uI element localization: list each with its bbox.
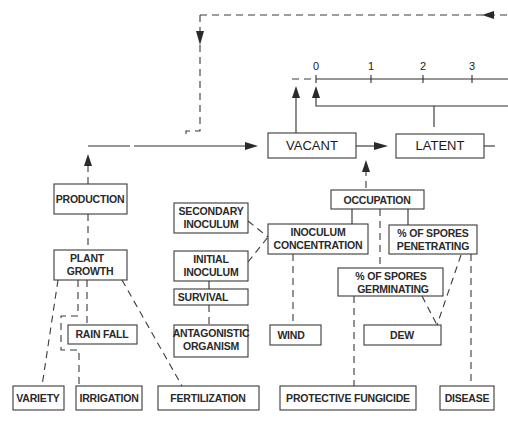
protective-fungicide-label: PROTECTIVE FUNGICIDE xyxy=(286,392,410,404)
initial-inoculum-label-1: INITIAL xyxy=(193,253,229,265)
fertilization-label: FERTILIZATION xyxy=(170,392,245,404)
arrow-left-icon xyxy=(482,11,494,19)
variety-box: VARIETY xyxy=(13,386,64,410)
dew-label: DEW xyxy=(390,329,414,341)
wind-label: WIND xyxy=(277,329,305,341)
tick-label-0: 0 xyxy=(313,60,319,72)
disease-box: DISEASE xyxy=(440,386,494,410)
secondary-inoculum-box: SECONDARY INOCULUM xyxy=(174,203,248,233)
latent-state-box: LATENT xyxy=(396,134,484,158)
antagonistic-organism-label-1: ANTAGONISTIC xyxy=(173,327,250,339)
variety-label: VARIETY xyxy=(16,392,60,404)
production-label: PRODUCTION xyxy=(56,193,125,205)
dew-box: DEW xyxy=(364,325,441,345)
wind-box: WIND xyxy=(270,325,321,345)
occupation-box: OCCUPATION xyxy=(331,190,424,209)
occupation-label: OCCUPATION xyxy=(343,194,410,206)
secondary-inoculum-label-1: SECONDARY xyxy=(179,205,244,217)
feedback-connector xyxy=(186,11,508,138)
arrow-down-icon xyxy=(196,31,204,45)
antagonistic-organism-box: ANTAGONISTIC ORGANISM xyxy=(173,325,250,357)
protective-fungicide-box: PROTECTIVE FUNGICIDE xyxy=(280,386,416,410)
tick-label-2: 2 xyxy=(420,60,426,72)
tick-label-3: 3 xyxy=(469,60,475,72)
vacant-label: VACANT xyxy=(286,138,338,153)
antagonistic-organism-label-2: ORGANISM xyxy=(183,340,240,352)
irrigation-box: IRRIGATION xyxy=(76,386,142,410)
arrow-up-icon xyxy=(84,154,92,166)
arrow-up-icon xyxy=(312,86,320,98)
arrow-right-icon xyxy=(374,142,388,150)
irrigation-label: IRRIGATION xyxy=(79,392,138,404)
plant-growth-label-2: GROWTH xyxy=(67,265,114,277)
plant-growth-box: PLANT GROWTH xyxy=(54,250,127,280)
secondary-inoculum-label-2: INOCULUM xyxy=(184,218,239,230)
plant-growth-label-1: PLANT xyxy=(70,252,105,264)
arrow-right-icon xyxy=(245,142,258,150)
survival-label: SURVIVAL xyxy=(178,291,229,303)
rain-fall-label: RAIN FALL xyxy=(75,328,129,340)
inoculum-concentration-box: INOCULUM CONCENTRATION xyxy=(268,224,368,254)
vacant-state-box: VACANT xyxy=(268,133,356,158)
arrow-up-icon xyxy=(362,160,370,172)
spores-germinating-label-1: % OF SPORES xyxy=(355,270,427,282)
tick-label-1: 1 xyxy=(368,60,374,72)
survival-box: SURVIVAL xyxy=(174,289,248,305)
disease-label: DISEASE xyxy=(445,392,490,404)
arrow-up-icon xyxy=(292,86,300,98)
spores-penetrating-box: % OF SPORES PENETRATING xyxy=(389,225,477,254)
disease-model-diagram: 0 1 2 3 VACANT LATENT PRODUCTION PLANT G… xyxy=(0,0,508,422)
spores-germinating-box: % OF SPORES GERMINATING xyxy=(338,268,443,296)
fertilization-box: FERTILIZATION xyxy=(158,386,259,410)
timeline-axis: 0 1 2 3 xyxy=(292,60,508,83)
spores-penetrating-label-1: % OF SPORES xyxy=(397,227,469,239)
production-box: PRODUCTION xyxy=(54,184,127,214)
inoculum-concentration-label-1: INOCULUM xyxy=(291,226,346,238)
initial-inoculum-box: INITIAL INOCULUM xyxy=(174,251,248,281)
spores-germinating-label-2: GERMINATING xyxy=(357,283,429,295)
initial-inoculum-label-2: INOCULUM xyxy=(184,266,239,278)
latent-label: LATENT xyxy=(416,138,465,153)
inoculum-concentration-label-2: CONCENTRATION xyxy=(274,239,363,251)
rain-fall-box: RAIN FALL xyxy=(68,325,137,344)
spores-penetrating-label-2: PENETRATING xyxy=(397,240,469,252)
